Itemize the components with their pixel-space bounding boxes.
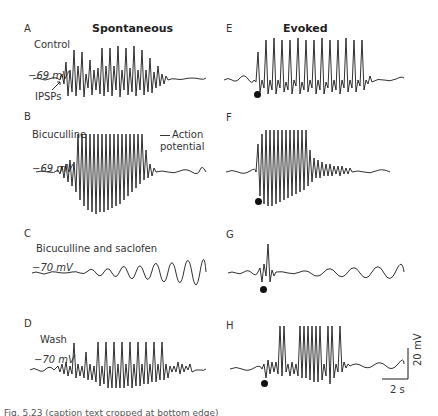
scale-bar — [0, 0, 438, 416]
scale-bar-time-label: 2 s — [390, 384, 405, 395]
figure-caption: Fig. 5.23 (caption text cropped at botto… — [4, 408, 219, 416]
scale-bar-voltage-label: 20 mV — [412, 334, 423, 367]
